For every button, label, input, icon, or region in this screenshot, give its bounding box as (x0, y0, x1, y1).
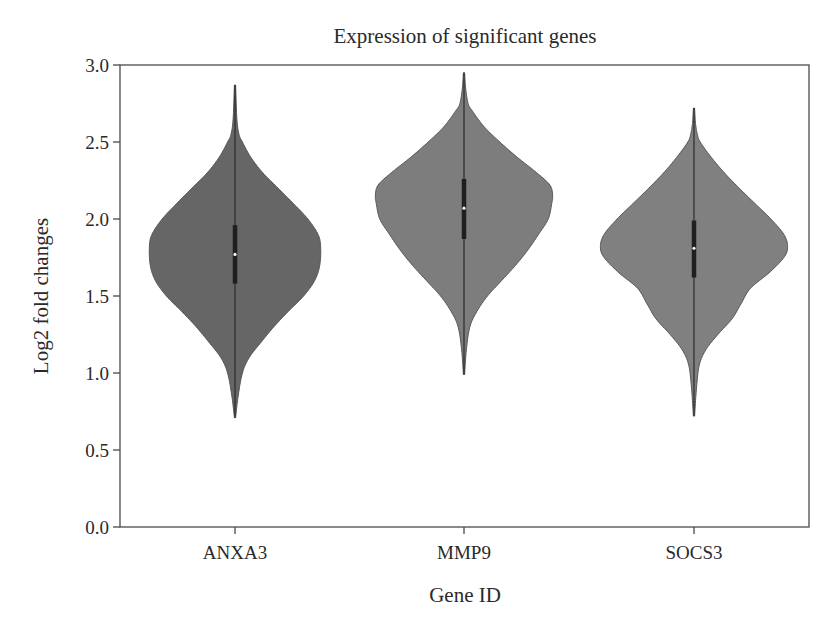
violins-layer (149, 73, 787, 418)
x-axis-title: Gene ID (429, 583, 501, 607)
y-tick-label: 2.5 (85, 132, 109, 153)
x-axis: ANXA3MMP9SOCS3 (203, 527, 723, 563)
violin-anxa3 (149, 85, 320, 418)
violin-socs3 (600, 108, 787, 416)
violin-chart: Expression of significant genes 0.00.51.… (0, 0, 834, 629)
y-tick-label: 0.0 (85, 517, 109, 538)
violin-median-dot (233, 253, 236, 256)
y-tick-label: 2.0 (85, 209, 109, 230)
violin-mmp9 (375, 73, 552, 375)
chart-title: Expression of significant genes (333, 24, 596, 48)
x-tick-label: MMP9 (437, 542, 491, 563)
y-axis: 0.00.51.01.52.02.53.0 (85, 55, 120, 538)
y-tick-label: 1.5 (85, 286, 109, 307)
violin-median-dot (692, 247, 695, 250)
y-tick-label: 1.0 (85, 363, 109, 384)
x-tick-label: SOCS3 (665, 542, 722, 563)
y-axis-title: Log2 fold changes (29, 218, 53, 374)
violin-median-dot (462, 207, 465, 210)
y-tick-label: 3.0 (85, 55, 109, 76)
y-tick-label: 0.5 (85, 440, 109, 461)
x-tick-label: ANXA3 (203, 542, 267, 563)
